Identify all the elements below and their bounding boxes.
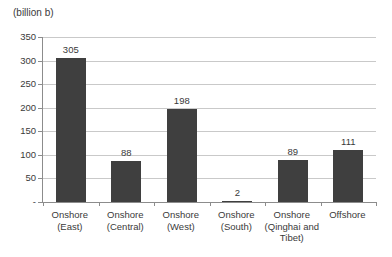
y-axis-tick-label: 250 [0,78,36,90]
bar [56,58,86,202]
y-axis-tick-mark [38,108,42,109]
category-label-line: (Qinghai and [258,221,326,233]
y-axis-tick-label: 50 [0,172,36,184]
y-axis-tick-label: 200 [0,102,36,114]
bar [278,160,308,202]
bar-value-label: 198 [162,95,202,106]
y-axis-tick-label: 150 [0,125,36,137]
plot-area: 30588198289111 [42,37,376,203]
bar-value-label: 88 [106,147,146,158]
x-axis-tick-mark [43,202,44,206]
y-axis-tick-label: 350 [0,31,36,43]
bar-chart-figure: (billion b) 30588198289111 -501001502002… [0,0,392,257]
y-axis-tick-mark [38,202,42,203]
gridline [43,108,376,109]
x-axis-tick-mark [265,202,266,206]
y-axis-tick-mark [38,37,42,38]
y-axis-tick-mark [38,131,42,132]
gridline [43,155,376,156]
bar [111,161,141,202]
bar [333,150,363,202]
gridline [43,37,376,38]
y-axis-tick-label: 300 [0,55,36,67]
x-axis-tick-mark [210,202,211,206]
y-axis-tick-label: - [0,196,36,208]
category-label-line: Tibet) [258,232,326,244]
bar [222,201,252,202]
category-label-line: Offshore [313,209,381,221]
x-axis-category-label: Offshore [313,209,381,221]
gridline [43,131,376,132]
y-axis-tick-mark [38,61,42,62]
x-axis-tick-mark [376,202,377,206]
bar-value-label: 2 [217,187,257,198]
bar-value-label: 305 [51,44,91,55]
bar [167,109,197,202]
gridline [43,178,376,179]
gridline [43,61,376,62]
y-axis-tick-mark [38,155,42,156]
gridline [43,84,376,85]
x-axis-tick-mark [99,202,100,206]
bar-value-label: 89 [273,146,313,157]
y-axis-tick-mark [38,84,42,85]
y-axis-unit-label: (billion b) [13,7,54,18]
y-axis-tick-label: 100 [0,149,36,161]
x-axis-tick-mark [321,202,322,206]
bar-value-label: 111 [328,136,368,147]
x-axis-tick-mark [154,202,155,206]
y-axis-tick-mark [38,178,42,179]
